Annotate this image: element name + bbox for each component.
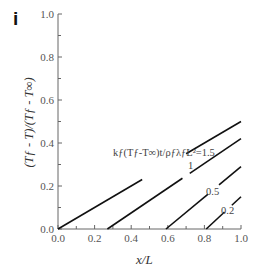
- tick-labels: 0.00.20.40.60.81.00.00.20.40.60.81.0: [40, 8, 248, 244]
- x-tick-label: 0.8: [198, 232, 212, 244]
- y-tick-label: 1.0: [40, 8, 54, 20]
- curve-0.5: [166, 194, 208, 229]
- curve-0.2: [232, 197, 241, 205]
- y-tick-label: 0.2: [40, 180, 54, 192]
- x-tick-label: 0.2: [88, 232, 102, 244]
- curve-labels: kƒ(Tƒ-T∞)t/ρƒλƒL²=1.510.50.2: [113, 147, 234, 216]
- y-axis-label: (Tƒ - T)/(Tƒ - T∞): [22, 58, 37, 188]
- curve-1.5: [58, 180, 142, 229]
- x-tick-label: 0.0: [51, 232, 65, 244]
- x-axis-label: x/L: [136, 252, 153, 268]
- curve-label: 1: [188, 160, 193, 171]
- curve-label: 0.2: [221, 205, 234, 216]
- x-tick-label: 1.0: [234, 232, 248, 244]
- y-tick-label: 0.4: [40, 137, 54, 149]
- curve-label: kƒ(Tƒ-T∞)t/ρƒλƒL²=1.5: [113, 147, 215, 159]
- curve-label: 0.5: [206, 186, 219, 197]
- x-tick-label: 0.4: [124, 232, 138, 244]
- x-tick-label: 0.6: [161, 232, 175, 244]
- curve-0.5: [219, 167, 241, 185]
- curve-1: [107, 178, 182, 229]
- y-tick-label: 0.6: [40, 94, 54, 106]
- y-tick-label: 0.8: [40, 51, 54, 63]
- data-lines: [58, 122, 241, 230]
- line-chart: 0.00.20.40.60.81.00.00.20.40.60.81.0 kƒ(…: [0, 0, 262, 275]
